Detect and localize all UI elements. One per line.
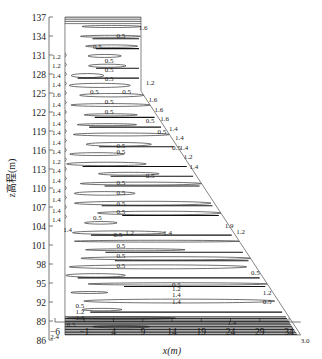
contour-label: 1.4 (52, 101, 61, 109)
contour-label: 1.4 (52, 207, 61, 215)
contour-label: 1.2 (236, 228, 245, 236)
contour-label: 1.6 (139, 24, 148, 32)
contour-label: 1.4 (52, 187, 61, 195)
contour-label: 1.4 (180, 144, 189, 152)
contour-label: 1.6 (149, 96, 158, 104)
contour-label: 1.2 (52, 62, 61, 70)
y-tick-label: 113 (32, 165, 46, 175)
contour-label: 1.4 (52, 148, 61, 156)
contour-label: 1.2 (146, 79, 155, 87)
axes: 8689929598101104107110113116119122125128… (32, 13, 301, 346)
contour-label: 1.2 (184, 153, 193, 161)
contour-label: 0.5 (105, 66, 114, 74)
contour-label: 1.4 (52, 139, 61, 147)
contour-label: 0.5 (146, 172, 155, 180)
contour-label: 0.5 (263, 298, 272, 306)
x-tick-label: 4 (111, 327, 116, 337)
x-tick-label: 24 (226, 327, 236, 337)
contour-label: 0.5 (116, 208, 125, 216)
y-tick-label: 104 (32, 222, 47, 232)
contour-label: 2.4 (50, 333, 59, 341)
y-tick-label: 128 (32, 70, 47, 80)
contour-label: 1.2 (52, 53, 61, 61)
contour-label: 1.4 (52, 196, 61, 204)
contour-label: 0.5 (116, 179, 125, 187)
contour-label: 0.5 (105, 75, 114, 83)
contour-label: 0.5 (116, 200, 125, 208)
contour-label: 0.5 (116, 252, 125, 260)
x-tick-label: 19 (197, 327, 207, 337)
contour-label: 1.4 (52, 167, 61, 175)
y-tick-label: 86 (37, 336, 47, 346)
contour-label: 1.4 (175, 134, 184, 142)
contour-label: 1.4 (169, 125, 178, 133)
contour-label: 0.5 (105, 98, 114, 106)
contour-label: 1.4 (190, 163, 199, 171)
contour-chart: 8689929598101104107110113116119122125128… (0, 0, 322, 359)
contour-label: 1.4 (52, 120, 61, 128)
x-tick-label: −1 (79, 327, 89, 337)
contour-label: 1.4 (52, 129, 61, 137)
contour-label: 1.2 (263, 289, 272, 297)
contour-label: 0.5 (105, 57, 114, 65)
contour-label: 1.4 (52, 72, 61, 80)
y-tick-label: 134 (32, 32, 47, 42)
contour-label: 0.5 (116, 189, 125, 197)
x-tick-label: 14 (167, 327, 177, 337)
contour-label: 1.2 (52, 158, 61, 166)
contour-label: 0.5 (105, 108, 114, 116)
contour-label: 0.5 (116, 262, 125, 270)
x-tick-label: 34 (284, 327, 294, 337)
contour-label: 0.5 (114, 231, 123, 239)
contour-label: 1.4 (228, 319, 237, 327)
contour-label: 1.2 (125, 229, 134, 237)
contour-label: 0.5 (90, 88, 99, 96)
contour-label: 1.3 (75, 314, 84, 322)
y-axis-label: z高程(m) (5, 159, 18, 198)
y-tick-label: 98 (37, 260, 47, 270)
y-tick-label: 125 (32, 89, 47, 99)
contour-label: 0.5 (157, 128, 166, 136)
contour-label: 1.4 (163, 229, 172, 237)
x-tick-label: 9 (140, 327, 145, 337)
contour-label: 0.5 (93, 43, 102, 51)
x-axis-label: x(m) (162, 345, 182, 357)
contour-label: 1.6 (154, 106, 163, 114)
x-tick-label: 29 (255, 327, 265, 337)
contour-label: 0.5 (251, 269, 260, 277)
contour-label: 0.5 (67, 321, 76, 329)
y-tick-label: 110 (32, 184, 46, 194)
contour-label: 1.6 (160, 115, 169, 123)
y-tick-label: 95 (37, 279, 47, 289)
contour-label: 1.4 (52, 110, 61, 118)
y-tick-label: 137 (32, 13, 47, 23)
y-tick-label: 107 (32, 203, 47, 213)
contour-label: 0.5 (146, 117, 155, 125)
y-tick-label: 122 (32, 108, 47, 118)
contour-label: 1.9 (225, 222, 234, 230)
contour-label: 1.4 (172, 298, 181, 306)
contour-label: 0.5 (116, 32, 125, 40)
contour-label: 1.4 (52, 81, 61, 89)
y-tick-label: 116 (32, 146, 46, 156)
contour-label: 1.4 (63, 226, 72, 234)
y-tick-label: 89 (37, 317, 47, 327)
contour-label: 1.4 (52, 216, 61, 224)
y-tick-label: 131 (32, 51, 47, 61)
y-tick-label: 92 (37, 298, 47, 308)
contour-label: 0.5 (122, 88, 131, 96)
contour-label: 0.5 (116, 242, 125, 250)
y-tick-label: 101 (32, 241, 47, 251)
contour-label: 1.4 (52, 177, 61, 185)
contour-label: 1.6 (52, 91, 61, 99)
contour-label: 3.0 (301, 337, 310, 345)
y-tick-label: 119 (32, 127, 46, 137)
contour-label: 0.5 (116, 148, 125, 156)
contour-label: 0.5 (93, 214, 102, 222)
